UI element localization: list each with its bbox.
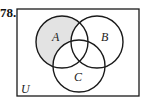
- label-a: A: [51, 30, 60, 44]
- label-universe: U: [21, 82, 31, 96]
- label-c: C: [74, 70, 83, 84]
- label-b: B: [101, 30, 109, 44]
- venn-diagram: A B C U: [0, 0, 144, 104]
